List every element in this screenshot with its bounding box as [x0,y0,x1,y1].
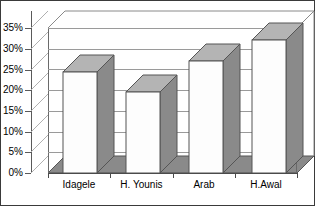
y-tick-20 [25,90,31,91]
y-axis-label-35: 35% [0,23,23,33]
y-axis-label-10: 10% [0,127,23,137]
bar-arab[interactable] [189,44,223,173]
x-tick-1 [110,173,111,178]
y-axis-label-30: 30% [0,44,23,54]
x-axis-label-h-younis: H. Younis [110,179,173,190]
y-tick-15 [25,111,31,112]
x-tick-3 [235,173,236,178]
x-axis-label-h-awal: H.Awal [235,179,297,190]
bar-h-younis[interactable] [126,75,160,173]
x-tick-4 [297,173,298,178]
y-tick-30 [25,49,31,50]
x-tick-2 [173,173,174,178]
x-tick-0 [48,173,49,178]
y-tick-35 [25,28,31,29]
x-axis-label-arab: Arab [173,179,235,190]
y-tick-25 [25,70,31,71]
y-axis-label-0: 0% [0,168,23,178]
y-axis-label-25: 25% [0,65,23,75]
y-tick-0 [25,173,31,174]
chart-container: 35% 30% 25% 20% 15% 10% 5% 0% [0,0,315,206]
bar-idagele[interactable] [63,55,97,173]
y-axis-label-5: 5% [0,147,23,157]
bar-h-awal[interactable] [252,23,286,173]
y-axis-label-15: 15% [0,106,23,116]
y-tick-10 [25,132,31,133]
x-axis-label-idagele: Idagele [48,179,110,190]
y-tick-5 [25,152,31,153]
y-axis-label-20: 20% [0,85,23,95]
